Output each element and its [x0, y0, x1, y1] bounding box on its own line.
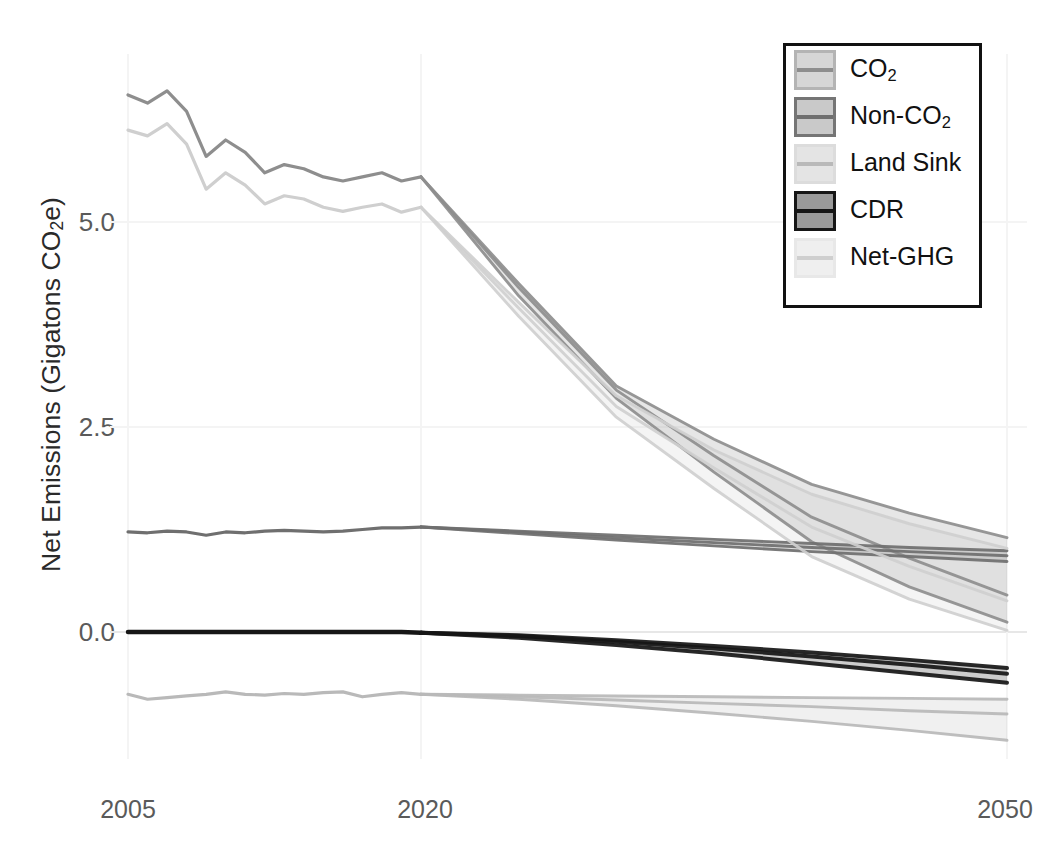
- legend-item-land-sink[interactable]: Land Sink: [786, 140, 979, 187]
- legend-label-land-sink: Land Sink: [850, 148, 961, 179]
- legend-item-net-ghg[interactable]: Net-GHG: [786, 234, 979, 281]
- legend-swatch-net-ghg: [794, 238, 836, 278]
- legend-item-co2[interactable]: CO2: [786, 46, 979, 93]
- legend-item-non-co2[interactable]: Non-CO2: [786, 93, 979, 140]
- legend-label-co2: CO2: [850, 54, 897, 85]
- legend-swatch-land-sink: [794, 144, 836, 184]
- legend-label-net-ghg: Net-GHG: [850, 242, 954, 273]
- scenario-band-land-sink: [421, 694, 1007, 740]
- legend: CO2 Non-CO2 Land Sink CDR Net-GHG: [783, 43, 982, 308]
- line-historical-non-co2: [128, 527, 421, 535]
- legend-label-cdr: CDR: [850, 195, 904, 226]
- legend-item-cdr[interactable]: CDR: [786, 187, 979, 234]
- legend-label-non-co2: Non-CO2: [850, 101, 951, 132]
- line-cdr-scenario-low: [421, 633, 1007, 683]
- line-historical-cdr: [128, 632, 421, 633]
- legend-swatch-non-co2: [794, 97, 836, 137]
- chart-root: Net Emissions (Gigatons CO2e) 5.0 2.5 0.…: [0, 0, 1050, 859]
- line-historical-land-sink: [128, 692, 421, 699]
- line-historical-co2: [128, 91, 421, 181]
- legend-swatch-cdr: [794, 191, 836, 231]
- legend-swatch-co2: [794, 50, 836, 90]
